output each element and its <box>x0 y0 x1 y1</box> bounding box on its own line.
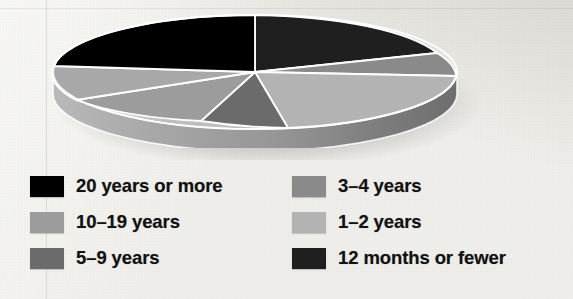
pie-slices <box>52 15 457 129</box>
legend-item-3-4-years[interactable]: 3–4 years <box>292 175 554 197</box>
legend-item-5-9-years[interactable]: 5–9 years <box>30 247 292 269</box>
pie-chart-figure: 20 years or more 3–4 years 10–19 years 1… <box>0 0 573 299</box>
legend-swatch-icon <box>292 176 326 197</box>
legend-item-10-19-years[interactable]: 10–19 years <box>30 211 292 233</box>
legend-label: 10–19 years <box>76 211 180 233</box>
pie-chart-svg <box>0 0 573 160</box>
legend-swatch-icon <box>30 212 64 233</box>
legend-swatch-icon <box>30 248 64 269</box>
pie-plot-area <box>0 0 573 160</box>
legend-item-20-years-or-more[interactable]: 20 years or more <box>30 175 292 197</box>
chart-legend: 20 years or more 3–4 years 10–19 years 1… <box>30 168 560 276</box>
legend-label: 20 years or more <box>76 175 223 197</box>
legend-swatch-icon <box>30 176 64 197</box>
legend-swatch-icon <box>292 212 326 233</box>
legend-swatch-icon <box>292 248 326 269</box>
legend-label: 1–2 years <box>338 211 421 233</box>
legend-item-1-2-years[interactable]: 1–2 years <box>292 211 554 233</box>
legend-label: 3–4 years <box>338 175 421 197</box>
legend-label: 12 months or fewer <box>338 247 506 269</box>
legend-label: 5–9 years <box>76 247 159 269</box>
pie-slice-20-years-or-more <box>54 15 255 72</box>
legend-item-12-months-or-fewer[interactable]: 12 months or fewer <box>292 247 554 269</box>
